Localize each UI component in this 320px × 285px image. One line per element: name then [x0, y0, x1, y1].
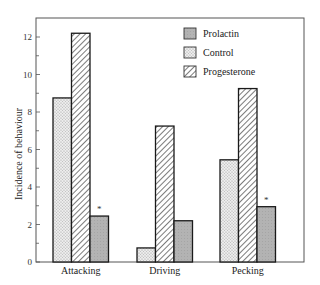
- legend-label: Control: [203, 47, 234, 58]
- y-axis: 024681012: [23, 32, 40, 267]
- bar-progesterone-attacking: [72, 33, 91, 262]
- legend-label: Prolactin: [203, 28, 239, 39]
- y-tick-label: 0: [28, 257, 33, 267]
- y-tick-label: 8: [28, 107, 33, 117]
- legend-label: Progesterone: [203, 66, 256, 77]
- y-tick-label: 6: [28, 145, 33, 155]
- significance-asterisk: *: [97, 204, 102, 214]
- x-category-label: Pecking: [232, 265, 264, 276]
- x-category-label: Attacking: [61, 265, 100, 276]
- bar-chart: 024681012 ** AttackingDrivingPecking Pro…: [0, 0, 320, 285]
- x-axis-labels: AttackingDrivingPecking: [61, 265, 264, 276]
- significance-asterisk: *: [264, 195, 269, 205]
- legend-item-progesterone: Progesterone: [184, 66, 256, 77]
- legend-item-prolactin: Prolactin: [184, 28, 239, 39]
- bar-control-driving: [137, 248, 156, 262]
- bar-progesterone-driving: [156, 126, 175, 262]
- legend-swatch: [184, 47, 196, 58]
- legend-swatch: [184, 28, 196, 39]
- bar-prolactin-pecking: [257, 207, 276, 262]
- bar-group-attacking: [53, 33, 109, 262]
- bar-prolactin-attacking: [90, 216, 109, 262]
- y-tick-label: 10: [23, 70, 33, 80]
- bar-control-pecking: [220, 160, 239, 262]
- y-axis-title: Incidence of behaviour: [13, 107, 24, 200]
- legend: ProlactinControlProgesterone: [184, 28, 256, 77]
- y-tick-label: 2: [28, 220, 33, 230]
- y-tick-label: 12: [23, 32, 32, 42]
- y-tick-label: 4: [28, 182, 33, 192]
- bar-prolactin-driving: [174, 221, 193, 262]
- legend-swatch: [184, 66, 196, 77]
- bar-group-driving: [137, 126, 193, 262]
- bar-control-attacking: [53, 98, 72, 262]
- bar-group-pecking: [220, 89, 276, 262]
- legend-item-control: Control: [184, 47, 234, 58]
- x-category-label: Driving: [149, 265, 180, 276]
- bar-progesterone-pecking: [239, 89, 258, 262]
